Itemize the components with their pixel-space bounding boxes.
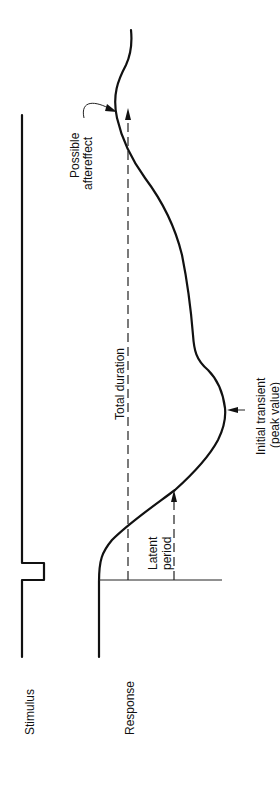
total-duration-label: Total duration	[113, 348, 127, 420]
initial-transient-label-line2: (peak value)	[268, 382, 280, 448]
initial-transient-arrow-icon	[227, 407, 238, 413]
initial-transient-label-line1: Initial transient	[254, 377, 268, 455]
stimulus-trace	[22, 115, 44, 657]
response-label: Response	[123, 681, 137, 735]
possible-aftereffect-label-line1: Possible	[68, 132, 82, 178]
stimulus-label: Stimulus	[23, 689, 37, 735]
latent-period-label-line2: period	[160, 537, 174, 570]
latent-period-label-line1: Latent	[146, 536, 160, 570]
stimulus-response-diagram: Stimulus Response Latent period Total du…	[0, 0, 280, 785]
possible-aftereffect-label-line2: aftereffect	[81, 136, 95, 190]
total-duration-arrow-icon	[125, 108, 131, 120]
